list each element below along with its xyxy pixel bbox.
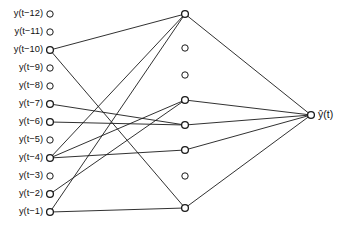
input-label: y(t−3) [19,170,43,180]
input-label: y(t−6) [19,116,43,126]
input-label: y(t−4) [19,152,43,162]
output-nodes-group [308,112,315,119]
input-hidden-edge [53,102,183,192]
hidden-node [182,205,189,212]
input-hidden-edge [53,101,182,156]
hidden-output-edge [188,100,308,114]
output-node [308,112,315,119]
input-node [47,191,54,198]
input-hidden-edge [53,15,182,49]
input-node [47,65,53,71]
input-hidden-edge [53,208,182,212]
input-node [47,155,54,162]
input-node [47,11,53,17]
input-node [47,137,53,143]
input-labels-group: y(t−12)y(t−11)y(t−10)y(t−9)y(t−8)y(t−7)y… [14,8,43,216]
input-node [47,47,54,54]
input-node [47,29,53,35]
input-hidden-edge [52,17,183,210]
input-label: y(t−5) [19,134,43,144]
hidden-to-output-edges [188,16,309,206]
input-hidden-edge [53,104,182,124]
input-hidden-edge [52,16,183,155]
input-to-hidden-edges [52,15,183,212]
input-node [47,119,54,126]
hidden-output-edge [188,16,309,113]
output-label: ŷ(t) [318,108,333,120]
output-labels-group: ŷ(t) [318,108,333,120]
input-node [47,173,53,179]
input-hidden-edge [53,150,182,158]
hidden-node [182,72,188,78]
hidden-output-edge [188,115,308,125]
input-label: y(t−10) [14,44,43,54]
input-label: y(t−11) [14,26,43,36]
neural-network-diagram: y(t−12)y(t−11)y(t−10)y(t−9)y(t−8)y(t−7)y… [0,0,350,229]
hidden-node [182,147,189,154]
input-label: y(t−2) [19,188,43,198]
hidden-node [182,173,188,179]
hidden-output-edge [188,117,309,206]
input-label: y(t−8) [19,80,43,90]
hidden-node [182,11,189,18]
hidden-nodes-group [182,11,189,212]
input-label: y(t−1) [19,206,43,216]
input-nodes-group [47,11,54,216]
hidden-output-edge [188,116,308,149]
input-label: y(t−7) [19,98,43,108]
network-canvas: y(t−12)y(t−11)y(t−10)y(t−9)y(t−8)y(t−7)y… [0,0,350,229]
input-label: y(t−9) [19,62,43,72]
hidden-node [182,97,189,104]
input-hidden-edge [53,122,182,125]
hidden-node [182,122,189,129]
input-node [47,83,53,89]
input-node [47,209,54,216]
hidden-node [182,45,188,51]
input-node [47,101,54,108]
input-label: y(t−12) [14,8,43,18]
